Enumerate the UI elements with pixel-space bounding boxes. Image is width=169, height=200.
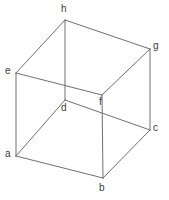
cube-edge-e-f xyxy=(16,73,102,95)
cube-edge-d-a xyxy=(16,100,65,156)
cube-edge-b-f xyxy=(102,95,103,178)
cube-edge-a-b xyxy=(16,156,103,178)
vertex-label-d: d xyxy=(61,103,67,113)
vertex-label-h: h xyxy=(61,4,67,14)
vertex-label-g: g xyxy=(153,41,159,51)
cube-edge-c-d xyxy=(65,100,150,130)
cube-edge-b-c xyxy=(103,130,150,178)
vertex-label-b: b xyxy=(99,183,105,193)
vertex-label-a: a xyxy=(5,149,11,159)
vertex-label-c: c xyxy=(153,123,158,133)
vertex-label-e: e xyxy=(5,66,11,76)
vertex-label-f: f xyxy=(99,97,102,107)
cube-diagram: abcdefgh xyxy=(0,0,169,200)
cube-edges xyxy=(16,20,150,178)
cube-edge-h-e xyxy=(16,20,65,73)
cube-wireframe-svg xyxy=(0,0,169,200)
cube-edge-g-h xyxy=(65,20,150,49)
cube-edge-f-g xyxy=(102,49,150,95)
